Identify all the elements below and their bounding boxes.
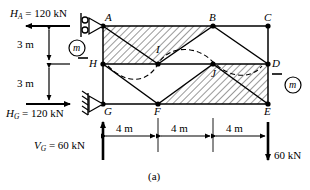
label-VG-subscript: G (41, 144, 46, 153)
label-hdim-4m-2: 4 m (171, 123, 188, 134)
joint-D (265, 61, 270, 66)
label-joint-A: A (105, 12, 112, 23)
figure-caption: (a) (148, 171, 160, 182)
label-load-60kN-unit: kN (288, 149, 301, 161)
label-section-marker-left: m (73, 43, 80, 53)
label-VG: VG = 60 kN (34, 140, 85, 153)
member-B-D (213, 26, 268, 64)
label-joint-C: C (264, 12, 271, 23)
label-HA-subscript: A (18, 12, 23, 21)
member-H-F (103, 64, 158, 104)
label-section-marker-right: m (289, 80, 296, 90)
label-joint-H: H (89, 58, 97, 69)
label-VG-value: 60 (58, 139, 69, 151)
label-joint-F: F (154, 106, 161, 117)
label-load-60kN-value: 60 (274, 149, 285, 161)
label-HA-symbol: H (10, 7, 18, 19)
joint-C (265, 23, 270, 28)
label-joint-I: I (156, 44, 160, 55)
label-HG-symbol: H (6, 107, 14, 119)
label-joint-D: D (272, 58, 280, 69)
label-hdim-4m-3: 4 m (226, 123, 243, 134)
label-vdim-3m-lower: 3 m (17, 78, 34, 89)
truss-figure: HA = 120 kN HG = 120 kN VG = 60 kN 60 kN… (0, 0, 310, 190)
label-hdim-4m-1: 4 m (116, 123, 133, 134)
label-VG-unit: kN (72, 139, 85, 151)
label-joint-B: B (209, 12, 216, 23)
label-VG-symbol: V (34, 139, 41, 151)
label-HG: HG = 120 kN (6, 108, 64, 121)
figure-canvas (0, 0, 310, 190)
label-HA: HA = 120 kN (10, 8, 67, 21)
joint-J (210, 61, 215, 66)
label-HG-equals: = (22, 107, 28, 119)
label-HG-subscript: G (14, 112, 19, 121)
vertical-dimension-chain (49, 30, 70, 100)
label-vdim-3m-upper: 3 m (17, 39, 34, 50)
joint-B (210, 23, 215, 28)
roller-support-A (81, 13, 103, 37)
label-load-60kN: 60 kN (274, 150, 301, 161)
joint-I (155, 61, 160, 66)
label-VG-equals: = (49, 139, 55, 151)
label-HA-value: 120 (34, 7, 51, 19)
label-joint-J: J (211, 68, 216, 79)
label-joint-E: E (264, 106, 271, 117)
pin-support-G (82, 91, 103, 115)
label-HA-equals: = (25, 7, 31, 19)
label-joint-G: G (104, 106, 112, 117)
label-HG-unit: kN (50, 107, 63, 119)
label-HG-value: 120 (31, 107, 48, 119)
joint-H (100, 61, 105, 66)
label-HA-unit: kN (53, 7, 66, 19)
